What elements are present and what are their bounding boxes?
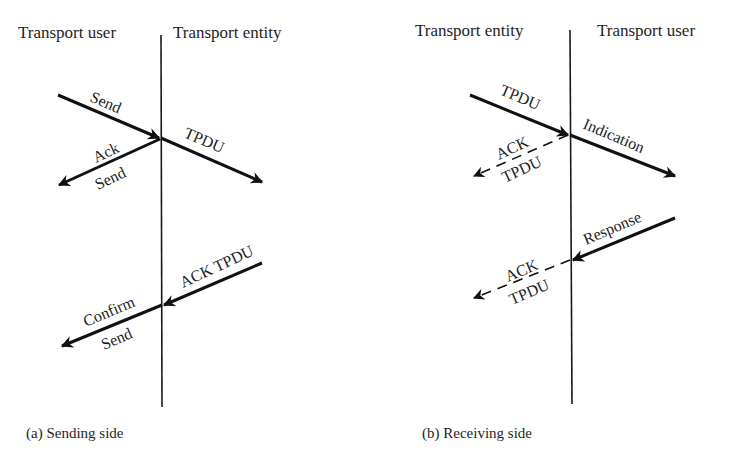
label-send: Send	[88, 88, 124, 116]
panel-receiving-side: Transport entity Transport user TPDU Ind…	[415, 21, 695, 442]
panel-sending-side: Transport user Transport entity Send TPD…	[18, 23, 282, 442]
transport-primitives-diagram: Transport user Transport entity Send TPD…	[0, 0, 738, 468]
caption-sending-side: (a) Sending side	[26, 425, 124, 442]
label-ack: Ack	[90, 139, 121, 166]
label-confirm: Confirm	[81, 293, 138, 330]
timeline-divider	[161, 35, 162, 407]
header-transport-entity: Transport entity	[173, 23, 282, 42]
timeline-divider	[570, 30, 572, 404]
header-transport-entity: Transport entity	[415, 21, 524, 40]
header-transport-user: Transport user	[18, 23, 116, 42]
caption-receiving-side: (b) Receiving side	[422, 425, 532, 442]
header-transport-user: Transport user	[597, 21, 695, 40]
label-indication: Indication	[581, 115, 647, 156]
